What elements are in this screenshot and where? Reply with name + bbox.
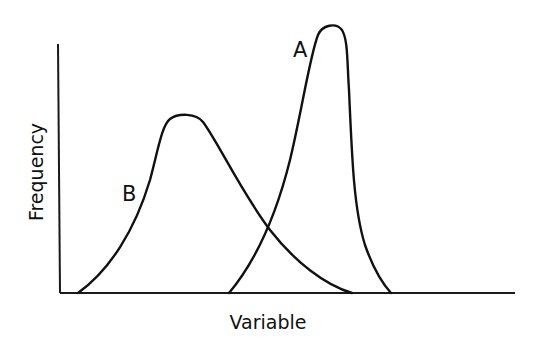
curve-a-label: A [293, 38, 308, 62]
curve-b [78, 115, 352, 293]
y-axis-title: Frequency [25, 123, 47, 221]
x-axis-title: Variable [230, 311, 307, 333]
curve-a [229, 25, 391, 293]
curve-b-label: B [122, 182, 136, 206]
y-axis-line [58, 44, 60, 293]
chart-figure: B A Variable Frequency [0, 0, 543, 352]
chart-canvas: B A Variable Frequency [0, 0, 543, 352]
